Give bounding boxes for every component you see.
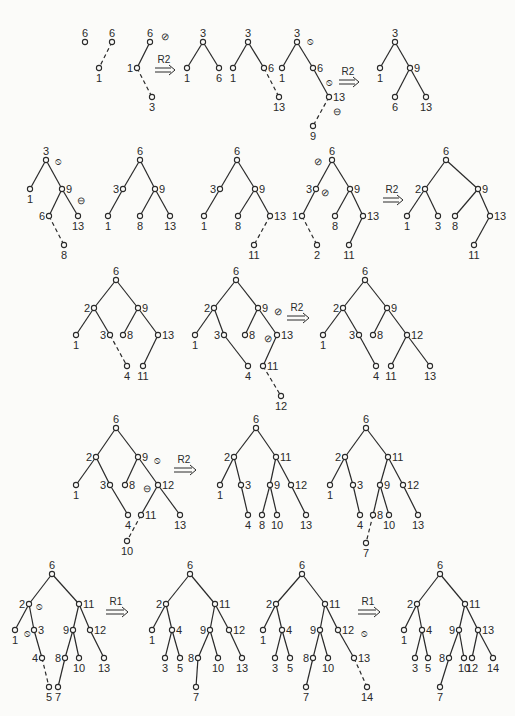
tree-node	[192, 332, 197, 337]
node-key-label: 2	[415, 183, 421, 195]
tree-node	[87, 627, 92, 632]
tree-node	[487, 213, 492, 218]
node-key-label: 1	[401, 634, 407, 646]
node-key-label: 8	[377, 329, 383, 341]
tree-node	[245, 39, 250, 44]
rotation-label: R1	[110, 596, 123, 607]
tree-node	[419, 627, 424, 632]
node-key-label: 9	[142, 451, 148, 463]
tree-edge	[343, 280, 365, 308]
tree-node	[377, 65, 382, 70]
tree-edge	[187, 42, 203, 68]
tree-node	[401, 627, 406, 632]
node-key-label: 6	[109, 27, 115, 39]
node-key-label: 12	[407, 479, 419, 491]
node-key-label: 6	[216, 72, 222, 84]
node-key-label: 9	[449, 624, 455, 636]
node-key-label: 8	[332, 220, 338, 232]
tree-edge	[440, 574, 465, 604]
tree-node	[351, 655, 356, 660]
tree-node	[386, 512, 391, 517]
tree-node	[82, 39, 87, 44]
node-key-label: 3	[294, 27, 300, 39]
inserted-edge	[313, 97, 329, 126]
tree-node	[234, 157, 239, 162]
tree-edge	[472, 630, 478, 658]
tree-node	[59, 186, 64, 191]
tree-node	[155, 332, 160, 337]
balance-mark-icon: ⊖	[143, 483, 151, 494]
node-key-label: 1	[192, 339, 198, 351]
tree-edge	[262, 485, 270, 515]
inserted-edge	[302, 216, 317, 245]
tree-edge	[166, 574, 190, 604]
tree-node	[288, 482, 293, 487]
rotation-label: R2	[158, 54, 171, 65]
tree-node	[320, 332, 325, 337]
tree-node	[475, 186, 480, 191]
tree-node	[475, 627, 480, 632]
tree-node	[73, 482, 78, 487]
node-key-label: 3	[245, 479, 251, 491]
node-key-label: 1	[127, 62, 133, 74]
node-key-label: 6	[233, 265, 239, 277]
balance-mark-icon: ⦸	[361, 628, 368, 639]
double-arrow-icon	[339, 77, 359, 87]
rotation-arrow: R1	[106, 596, 128, 617]
tree-edge	[256, 428, 276, 457]
tree-edge	[395, 42, 410, 68]
node-key-label: 13	[274, 210, 286, 222]
tree-node	[340, 305, 345, 310]
balance-mark-icon: ⊘	[161, 31, 169, 42]
node-key-label: 6	[392, 101, 398, 113]
tree-node	[169, 627, 174, 632]
tree-edge	[238, 189, 255, 216]
tree-node	[364, 684, 369, 689]
tree-node	[155, 482, 160, 487]
node-key-label: 12	[411, 329, 423, 341]
node-key-label: 11	[83, 598, 94, 610]
tree-node	[27, 186, 32, 191]
tree-node	[187, 571, 192, 576]
node-key-label: 10	[212, 662, 224, 674]
tree-node	[362, 277, 367, 282]
tree-node	[122, 482, 127, 487]
tree-node	[303, 684, 308, 689]
balance-mark-icon: ⊘	[321, 187, 329, 198]
rotation-arrow: R2	[339, 66, 359, 87]
tree-node	[299, 213, 304, 218]
node-key-label: 6	[363, 413, 369, 425]
node-key-label: 4	[176, 624, 182, 636]
node-key-label: 3	[200, 27, 206, 39]
node-key-label: 7	[55, 691, 61, 703]
rotation-label: R2	[386, 184, 399, 195]
tree-node	[274, 332, 279, 337]
node-key-label: 4	[373, 370, 379, 382]
tree-node	[384, 305, 389, 310]
tree-edge	[196, 658, 198, 687]
tree-node	[299, 571, 304, 576]
node-key-label: 2	[333, 302, 339, 314]
tree-node	[201, 213, 206, 218]
tree-edge	[417, 574, 440, 604]
tree-node	[385, 454, 390, 459]
tree-edge	[234, 457, 241, 485]
node-key-label: 10	[271, 519, 283, 531]
tree-node	[327, 482, 332, 487]
node-key-label: 11	[469, 598, 480, 610]
node-key-label: 3	[100, 329, 106, 341]
tree-node	[332, 213, 337, 218]
node-key-label: 12	[233, 624, 245, 636]
tree-node	[469, 655, 474, 660]
tree-edge	[210, 630, 218, 658]
node-key-label: 1	[201, 220, 207, 232]
node-key-label: 1	[27, 193, 33, 205]
tree-node	[377, 482, 382, 487]
node-key-label: 11	[329, 598, 340, 610]
tree-node	[235, 213, 240, 218]
tree-node	[251, 242, 256, 247]
node-key-label: 1	[279, 72, 285, 84]
balance-mark-icon: ⊘	[314, 156, 322, 167]
node-key-label: 9	[354, 183, 360, 195]
node-key-label: 6	[39, 210, 45, 222]
